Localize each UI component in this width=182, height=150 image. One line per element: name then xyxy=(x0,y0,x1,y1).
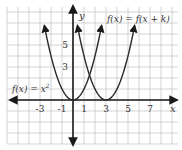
y-axis-label: y xyxy=(78,10,85,21)
x-tick-label: -3 xyxy=(36,104,45,114)
y-tick-label: 3 xyxy=(62,62,68,72)
x-tick-label: 1 xyxy=(81,104,87,114)
x-tick-label: 5 xyxy=(125,104,131,114)
x-tick-label: 3 xyxy=(103,104,109,114)
grid xyxy=(7,7,178,144)
x-axis-label: x xyxy=(170,103,176,114)
x-tick-label: 7 xyxy=(147,104,153,114)
x-tick-labels: -3-11357 xyxy=(36,104,154,114)
x-tick-label: -1 xyxy=(58,104,67,114)
parabola-graph: -3-11357 35 x y f(x) = x2 f(x) = f(x + k… xyxy=(0,0,182,150)
left-curve-label: f(x) = x2 xyxy=(11,82,50,94)
y-tick-label: 5 xyxy=(62,40,68,50)
right-curve-label: f(x) = f(x + k) xyxy=(106,14,170,24)
